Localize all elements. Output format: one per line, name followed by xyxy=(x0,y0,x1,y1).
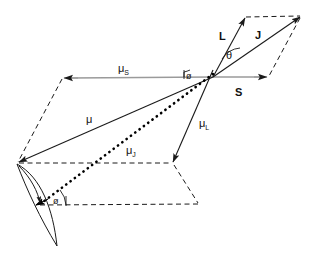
vector-mu-arrow xyxy=(19,77,213,162)
spin-axis-line xyxy=(64,77,267,78)
label-mu-s: μS xyxy=(118,62,129,76)
vector-diagram-figure: μS μ μL μJ L J S θ ø ø xyxy=(0,0,313,258)
vector-diagram-canvas: μS μ μL μJ L J S θ ø ø xyxy=(0,0,313,258)
dashed-muS-to-mu xyxy=(18,79,62,162)
dashed-muL-to-corner xyxy=(174,165,198,203)
angle-phi-bottom-arc xyxy=(60,190,66,205)
label-mu-j: μJ xyxy=(126,144,136,158)
vector-L-arrow xyxy=(213,18,245,77)
angle-arcs xyxy=(60,48,240,206)
mu-s-vector-shaft xyxy=(70,77,213,78)
vector-J-arrow xyxy=(213,17,300,77)
dashed-lower-base xyxy=(40,204,198,205)
precession-direction-arc xyxy=(19,166,40,203)
label-vector-L: L xyxy=(219,30,226,42)
vector-mu-L-arrow xyxy=(173,70,213,162)
label-vector-S: S xyxy=(235,86,242,98)
label-angle-phi-top: ø xyxy=(186,71,192,81)
label-vector-J: J xyxy=(255,29,261,41)
label-angle-phi-bottom: ø xyxy=(53,196,59,206)
vector-mu-J-dotted-shaft xyxy=(43,74,213,202)
label-angle-theta: θ xyxy=(226,49,232,61)
dashed-L-to-J xyxy=(246,16,300,17)
label-mu-l: μL xyxy=(199,117,209,131)
dashed-construction-lines xyxy=(18,16,300,205)
label-mu: μ xyxy=(86,113,92,125)
dashed-J-to-S xyxy=(269,18,300,76)
mu-J-dotted-vector xyxy=(36,74,213,205)
